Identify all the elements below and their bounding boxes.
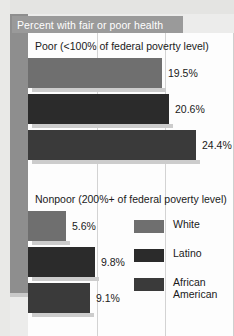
legend-swatch <box>134 220 164 233</box>
bar <box>28 211 66 241</box>
legend-label: White <box>173 219 200 231</box>
bar-shadow <box>32 313 94 317</box>
bar-shadow <box>32 277 99 281</box>
chart-title-band: Percent with fair or poor health <box>12 16 183 33</box>
bar-fill <box>28 58 162 88</box>
chart-left-spine-shadow <box>10 293 28 297</box>
chart-page: Percent with fair or poor health Poor (<… <box>0 0 234 336</box>
plot-area: Poor (<100% of federal poverty level)19.… <box>28 33 234 336</box>
bar-fill <box>28 211 66 241</box>
bar-value-label: 19.5% <box>168 67 198 79</box>
bar-value-label: 9.1% <box>96 292 120 304</box>
legend-label: Latino <box>173 248 202 260</box>
legend-item: Latino <box>134 248 202 262</box>
chart-title: Percent with fair or poor health <box>12 19 163 31</box>
legend-swatch <box>134 278 164 291</box>
bar-shadow <box>32 241 70 245</box>
bar <box>28 247 95 277</box>
bar-value-label: 24.4% <box>202 139 232 151</box>
bar-fill <box>28 94 169 124</box>
legend-label: African American <box>173 277 217 300</box>
group-label: Poor (<100% of federal poverty level) <box>35 40 209 52</box>
bar-value-label: 5.6% <box>72 220 96 232</box>
legend-item: African American <box>134 277 217 300</box>
bar-value-label: 20.6% <box>175 103 205 115</box>
legend-swatch <box>134 249 164 262</box>
bar-value-label: 9.8% <box>101 256 125 268</box>
bar-shadow <box>32 160 200 164</box>
bar <box>28 58 162 88</box>
legend-item: White <box>134 219 200 233</box>
plot-right-edge <box>233 33 234 336</box>
bar <box>28 130 196 160</box>
bar-shadow <box>32 124 173 128</box>
bar <box>28 94 169 124</box>
bar-shadow <box>32 88 166 92</box>
group-label: Nonpoor (200%+ of federal poverty level) <box>35 193 227 205</box>
bar-fill <box>28 247 95 277</box>
chart-left-spine <box>10 14 28 293</box>
page-top-margin <box>0 0 234 14</box>
bar-fill <box>28 283 90 313</box>
bar <box>28 283 90 313</box>
page-left-margin <box>0 0 10 336</box>
bar-fill <box>28 130 196 160</box>
